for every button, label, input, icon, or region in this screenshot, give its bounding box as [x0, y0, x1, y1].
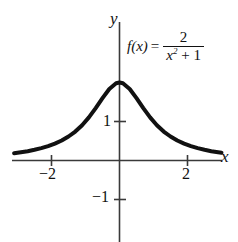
function-formula: f(x) = 2 x2 + 1: [127, 30, 204, 63]
formula-denominator-rest: + 1: [181, 47, 201, 63]
formula-denominator-exponent: 2: [173, 46, 178, 56]
formula-function-name: f(x): [127, 39, 148, 54]
formula-fraction: 2 x2 + 1: [163, 30, 204, 63]
function-curve: [14, 83, 221, 154]
formula-numerator: 2: [174, 30, 194, 46]
formula-equals: =: [151, 39, 159, 54]
x-axis-label: x: [221, 148, 229, 165]
function-graph-figure: y x −2 2 1 −1 f(x) = 2 x2 + 1: [0, 0, 238, 242]
x-tick-label-neg2: −2: [39, 166, 56, 182]
x-tick-label-pos2: 2: [182, 166, 190, 182]
y-tick-label-1: 1: [103, 113, 111, 129]
formula-denominator: x2 + 1: [163, 47, 204, 63]
y-tick-label-neg1: −1: [92, 189, 109, 205]
y-axis-label: y: [110, 10, 118, 27]
formula-denominator-variable: x: [166, 47, 173, 63]
